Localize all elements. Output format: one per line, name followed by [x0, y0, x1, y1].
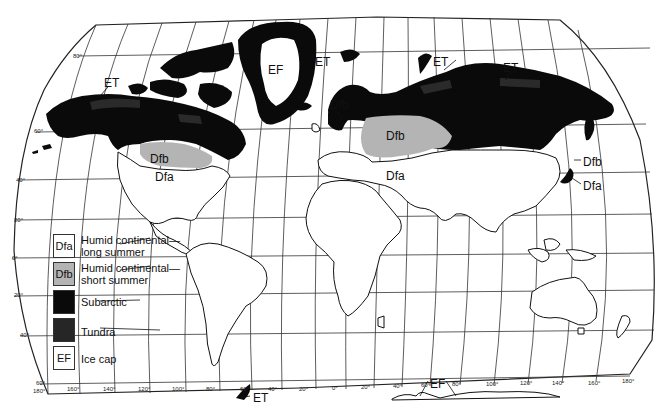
lat-tick-80n: 80°	[73, 53, 82, 59]
lon-tick-0: 0°	[332, 385, 338, 391]
label-et-russia-west: ET	[433, 56, 448, 68]
eurasia-africa-outline	[306, 124, 560, 328]
legend-label-dfa-line2: long summer	[81, 246, 180, 258]
legend-swatch-dfb: Dfb	[53, 262, 75, 286]
lon-tick-180w: 180°	[33, 388, 45, 394]
lon-tick-100e: 100°	[486, 381, 498, 387]
label-et-greenland: ET	[315, 56, 330, 68]
lon-tick-100w: 100°	[172, 386, 184, 392]
legend-label-tundra: Tundra	[81, 326, 115, 338]
lon-tick-20w: 20°	[299, 386, 308, 392]
lon-tick-40w: 40°	[268, 386, 277, 392]
lon-tick-80e: 80°	[452, 381, 461, 387]
lat-tick-40n: 40°	[16, 177, 25, 183]
legend-item-ice-cap: EF Ice cap	[53, 346, 116, 370]
label-et-russia-east: ET	[503, 62, 518, 74]
legend-label-dfa-line1: Humid continental—	[81, 234, 180, 246]
lat-tick-60n: 60°	[34, 128, 43, 134]
lon-tick-120e: 120°	[520, 380, 532, 386]
label-dfa-asia: Dfa	[583, 180, 602, 192]
lon-tick-180e: 180°	[622, 378, 634, 384]
legend-swatch-ef: EF	[53, 346, 75, 370]
lat-tick-0: 0°	[12, 255, 18, 261]
legend-label-dfb-line1: Humid continental—	[81, 262, 180, 274]
lat-tick-60s: 60°	[36, 380, 45, 386]
legend-item-dfa: Dfa Humid continental— long summer	[53, 234, 180, 258]
legend-item-tundra: Tundra	[53, 318, 115, 342]
label-dfb-russia: Dfb	[386, 130, 405, 142]
label-dfb-north-america: Dfb	[150, 153, 169, 165]
lon-tick-160w: 160°	[67, 386, 79, 392]
lat-tick-40s: 40°	[20, 332, 29, 338]
label-et-antarctica: ET	[253, 392, 268, 404]
lon-tick-80w: 80°	[206, 386, 215, 392]
south-america	[186, 243, 267, 365]
lon-tick-60e: 60°	[421, 382, 430, 388]
lon-tick-140w: 140°	[103, 386, 115, 392]
label-ef-greenland: EF	[268, 64, 283, 76]
lat-tick-20n: 20°	[14, 217, 23, 223]
label-ef-antarctica: EF	[430, 378, 445, 390]
legend-item-dfb: Dfb Humid continental— short summer	[53, 262, 180, 286]
legend-label-dfb-line2: short summer	[81, 274, 180, 286]
lon-tick-40e: 40°	[393, 383, 402, 389]
legend-swatch-tundra	[53, 318, 75, 342]
lon-tick-120w: 120°	[138, 386, 150, 392]
lat-tick-20s: 20°	[14, 292, 23, 298]
legend-swatch-subarctic	[53, 290, 75, 314]
label-dfa-north-america: Dfa	[155, 171, 174, 183]
label-dfb-scandinavia: Dfb	[330, 99, 349, 111]
lon-tick-160e: 160°	[588, 380, 600, 386]
legend-swatch-dfa: Dfa	[53, 234, 75, 258]
legend-label-subarctic: Subarctic	[81, 296, 127, 308]
label-dfb-asia: Dfb	[583, 156, 602, 168]
lon-tick-60w: 60°	[240, 386, 249, 392]
lon-tick-140e: 140°	[552, 380, 564, 386]
legend-label-ice-cap: Ice cap	[81, 353, 116, 365]
lon-tick-20e: 20°	[361, 384, 370, 390]
label-et-alaska: ET	[104, 77, 119, 89]
label-dfa-europe: Dfa	[386, 170, 405, 182]
legend-item-subarctic: Subarctic	[53, 290, 127, 314]
